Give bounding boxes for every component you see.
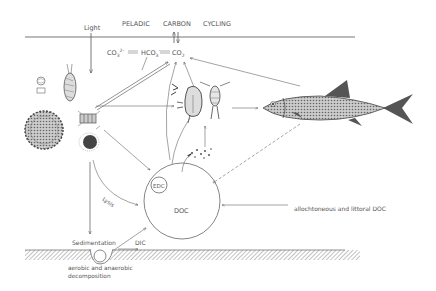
- edc-pool: EDC: [151, 177, 167, 193]
- carbon-cycling-diagram: PELADIC CARBON CYCLING Light CO32- HCO3-…: [0, 0, 436, 291]
- dic-label: DIC: [135, 239, 146, 246]
- sediment-layer: [25, 250, 360, 260]
- light-label: Light: [84, 24, 101, 32]
- small-algae: [37, 77, 45, 93]
- doc-pool: DOC: [144, 163, 220, 239]
- colonial-alga: [25, 111, 63, 149]
- diatom-chain: [78, 111, 100, 129]
- ciliate: [64, 64, 76, 101]
- co3-label: CO32-: [107, 48, 124, 58]
- algal-colony: [79, 133, 99, 151]
- hco3-label: HCO3-: [141, 48, 160, 58]
- title-word-3: CYCLING: [203, 20, 231, 28]
- edc-label: EDC: [153, 183, 165, 189]
- equilibrium-arrow-1: [128, 51, 138, 53]
- fish-to-doc-dashed-arrow: [213, 124, 300, 183]
- diagram-title: PELADIC CARBON CYCLING: [122, 20, 231, 28]
- carbonate-equilibrium: CO32- HCO3- CO2: [107, 48, 185, 58]
- decomposition-label-line1: aerobic and anaerobic: [68, 265, 133, 271]
- allochthonous-doc-label: allochtoneous and littoral DOC: [294, 205, 386, 212]
- daphnia-to-co2-arrow: [184, 62, 194, 87]
- bacteria: [188, 148, 212, 159]
- co2-label: CO2: [172, 49, 185, 58]
- equilibrium-arrow-2: [160, 51, 170, 53]
- copepod: [200, 82, 230, 119]
- daphnia: [171, 84, 202, 123]
- algae-co2-double-arrow: [95, 57, 170, 110]
- lysis-label: Lysis: [101, 196, 116, 209]
- title-word-1: PELADIC: [122, 20, 150, 28]
- fish: [263, 80, 413, 126]
- title-word-2: CARBON: [163, 20, 191, 28]
- decomposition-label-line2: decomposition: [68, 273, 111, 280]
- algae-to-edc-arrow: [104, 130, 150, 170]
- doc-to-co2-arrow: [166, 62, 176, 160]
- decomposition-pocket: [90, 249, 113, 264]
- fish-to-co2-arrow: [190, 58, 300, 86]
- lysis-arrow: [93, 160, 138, 205]
- doc-label: DOC: [174, 207, 189, 215]
- sedimentation-label: Sedimentation: [72, 239, 116, 246]
